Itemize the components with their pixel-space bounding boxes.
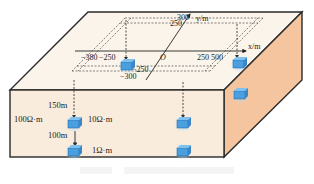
depth-150m-label: 150m bbox=[48, 100, 68, 110]
y-tick-250: 250 bbox=[170, 19, 182, 28]
caption-fragment bbox=[124, 167, 234, 174]
x-tick-neg380: −380 bbox=[81, 53, 98, 62]
figure-caption bbox=[80, 167, 136, 176]
origin-label: O bbox=[160, 53, 166, 62]
block-icon bbox=[65, 115, 83, 133]
y-axis-label: y/m bbox=[196, 14, 209, 23]
x-tick-neg250: −250 bbox=[99, 53, 116, 62]
x-tick-500: 500 bbox=[211, 53, 223, 62]
block-icon bbox=[65, 143, 83, 161]
block-icon bbox=[118, 57, 136, 75]
resistivity-model-diagram: x/m y/m O −380 −250 250 500 300 250 −250… bbox=[0, 0, 314, 184]
block-icon bbox=[174, 115, 192, 133]
block-icon bbox=[174, 143, 192, 161]
block-2-resistivity-label: 1Ω·m bbox=[92, 145, 112, 155]
block-icon bbox=[231, 86, 249, 104]
x-tick-250: 250 bbox=[197, 53, 209, 62]
block-1-resistivity-label: 10Ω·m bbox=[88, 114, 113, 124]
block-icon bbox=[230, 55, 248, 73]
depth-100m-label: 100m bbox=[48, 130, 68, 140]
host-resistivity-label: 100Ω·m bbox=[14, 114, 43, 124]
x-axis-label: x/m bbox=[248, 42, 261, 51]
